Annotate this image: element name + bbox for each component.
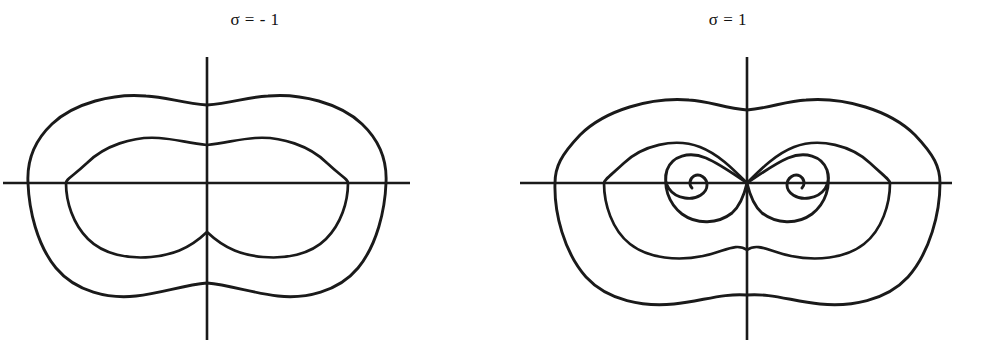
separatrix-right-lobe-right-panel	[747, 155, 828, 222]
separatrix-left-lobe-right-panel	[666, 155, 747, 222]
panel-sigma-positive-one: σ = 1	[470, 0, 986, 352]
panel-sigma-negative-one: σ = - 1	[0, 0, 470, 352]
plot-sigma-positive-one	[470, 0, 986, 352]
phase-portrait-figure: σ = - 1 σ = 1	[0, 0, 986, 352]
plot-sigma-negative-one	[0, 0, 470, 352]
